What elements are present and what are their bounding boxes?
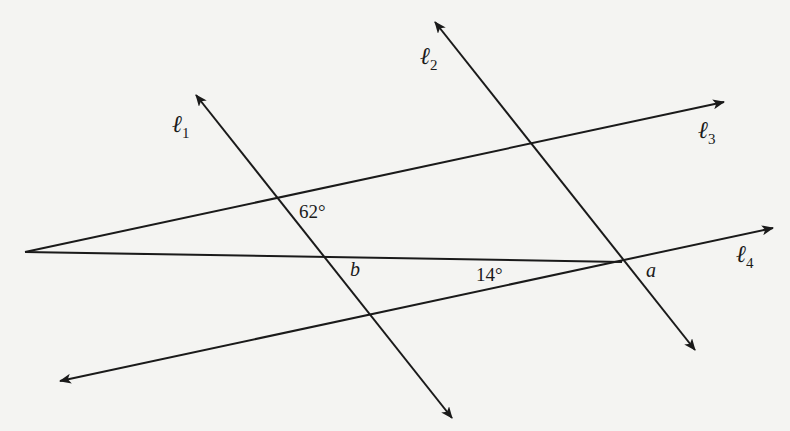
angle-label-14: 14°	[476, 264, 503, 285]
label-l4: ℓ4	[736, 241, 754, 271]
angle-label-a: a	[646, 259, 656, 281]
line-l3	[25, 102, 724, 252]
label-l3: ℓ3	[698, 117, 716, 147]
angle-label-62: 62°	[299, 201, 326, 222]
label-l2: ℓ2	[420, 43, 438, 73]
geometry-diagram: ℓ1 ℓ2 ℓ3 ℓ4 62° 14° b a	[0, 0, 790, 431]
diagram-canvas: ℓ1 ℓ2 ℓ3 ℓ4 62° 14° b a	[0, 0, 790, 431]
angle-label-b: b	[350, 258, 360, 280]
line-l2	[435, 22, 695, 350]
transversal-segment	[25, 252, 622, 262]
label-l1: ℓ1	[172, 111, 190, 141]
line-l4	[60, 228, 773, 381]
